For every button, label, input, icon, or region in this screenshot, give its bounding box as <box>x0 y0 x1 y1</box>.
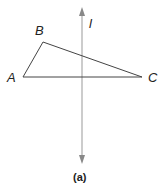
vertex-label-a: A <box>6 70 16 85</box>
diagram-canvas: l B A C (a) <box>0 0 163 187</box>
arrow-down-icon <box>79 155 85 164</box>
line-label: l <box>89 16 93 31</box>
arrow-up-icon <box>79 7 85 16</box>
figure-caption: (a) <box>73 171 87 183</box>
vertex-label-b: B <box>35 23 44 38</box>
vertex-label-c: C <box>148 70 158 85</box>
